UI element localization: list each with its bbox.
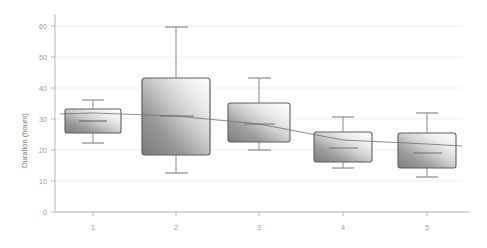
x-tick-label-5: 5: [425, 223, 429, 232]
box-2[interactable]: [142, 78, 210, 155]
y-tick-label-60: 60: [39, 22, 47, 31]
box-plot-chart: 0 10 20 30 40 50 60 Duration (hours) 1 2…: [0, 0, 487, 248]
y-tick-label-40: 40: [39, 84, 47, 93]
box-3[interactable]: [228, 103, 290, 142]
y-tick-label-10: 10: [39, 177, 47, 186]
y-tick-label-50: 50: [39, 53, 47, 62]
x-tick-label-3: 3: [257, 223, 261, 232]
chart-canvas: 0 10 20 30 40 50 60 Duration (hours) 1 2…: [0, 0, 487, 248]
x-tick-label-2: 2: [174, 223, 178, 232]
x-tick-label-1: 1: [91, 223, 95, 232]
y-tick-label-20: 20: [39, 146, 47, 155]
y-tick-label-30: 30: [39, 115, 47, 124]
x-tick-label-4: 4: [341, 223, 345, 232]
y-tick-label-0: 0: [43, 208, 47, 217]
y-axis-title: Duration (hours): [20, 113, 29, 168]
box-5[interactable]: [398, 133, 456, 168]
